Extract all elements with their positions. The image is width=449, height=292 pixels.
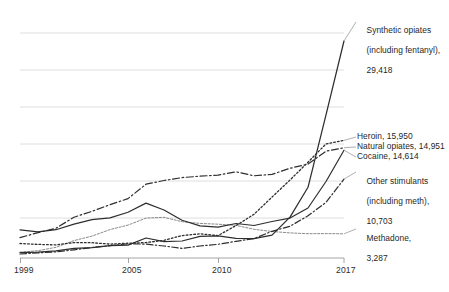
- x-axis: [20, 258, 344, 263]
- series-label-synthetic-line3: 29,418: [367, 65, 393, 75]
- series-label-methadone: Methadone, 3,287: [357, 224, 411, 274]
- label-leader-lines: [344, 22, 356, 234]
- series-label-synthetic-line1: Synthetic opiates: [367, 25, 432, 35]
- series-line-heroin: [20, 140, 344, 245]
- leader-heroin: [344, 137, 356, 140]
- leader-stimulants: [344, 172, 356, 179]
- series-label-methadone-line1: Methadone,: [367, 233, 412, 243]
- series-label-synthetic-line2: (including fentanyl),: [367, 45, 441, 55]
- leader-cocaine: [344, 150, 356, 157]
- x-axis-label-2005: 2005: [122, 265, 142, 275]
- gridlines: [20, 33, 344, 218]
- series-label-synthetic-opiates: Synthetic opiates (including fentanyl), …: [357, 16, 440, 85]
- leader-methadone: [344, 229, 356, 234]
- line-chart-overdose-deaths: 1999 2005 2010 2017 Synthetic opiates (i…: [0, 0, 449, 292]
- x-axis-label-1999: 1999: [14, 265, 34, 275]
- series-label-cocaine: Cocaine, 14,614: [357, 152, 419, 162]
- series-label-methadone-line2: 3,287: [367, 253, 388, 263]
- leader-synthetic: [344, 22, 356, 41]
- x-axis-label-2017: 2017: [336, 265, 356, 275]
- series-lines: [20, 41, 344, 254]
- series-line-cocaine: [20, 150, 344, 232]
- leader-natural: [344, 147, 356, 148]
- series-label-stimulants-line1: Other stimulants: [367, 176, 429, 186]
- series-label-stimulants-line2: (including meth),: [367, 196, 430, 206]
- x-axis-label-2010: 2010: [212, 265, 232, 275]
- series-line-natural-opiates: [20, 148, 344, 238]
